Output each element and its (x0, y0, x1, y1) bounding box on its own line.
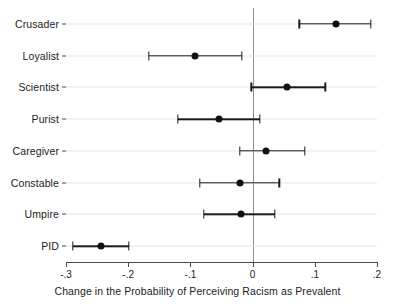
category-tick (62, 55, 66, 56)
x-axis-title: Change in the Probability of Perceiving … (0, 285, 395, 297)
x-axis-tick-label: -.1 (185, 269, 197, 280)
category-label-caregiver: Caregiver (13, 145, 59, 157)
confidence-interval-cap (304, 146, 305, 155)
category-label-purist: Purist (32, 113, 59, 125)
category-label-scientist: Scientist (18, 81, 59, 93)
x-axis-tick-label: .1 (311, 269, 319, 280)
x-axis-tick (253, 262, 254, 267)
confidence-interval-cap (325, 83, 326, 92)
x-axis-tick-label: 0 (250, 269, 256, 280)
x-axis-tick (190, 262, 191, 267)
category-tick (62, 87, 66, 88)
x-axis-tick (66, 262, 67, 267)
plot-area: CrusaderLoyalistScientistPuristCaregiver… (66, 8, 377, 262)
forest-plot-figure: CrusaderLoyalistScientistPuristCaregiver… (0, 0, 395, 306)
category-tick (62, 119, 66, 120)
estimate-point (332, 20, 339, 27)
category-tick (62, 182, 66, 183)
category-tick (62, 214, 66, 215)
confidence-interval-cap (274, 210, 275, 219)
confidence-interval-cap (199, 178, 200, 187)
x-axis-tick-label: -.3 (60, 269, 72, 280)
estimate-point (216, 116, 223, 123)
category-label-constable: Constable (11, 177, 59, 189)
estimate-point (283, 84, 290, 91)
confidence-interval-cap (177, 115, 178, 124)
category-label-crusader: Crusader (15, 18, 59, 30)
estimate-point (237, 179, 244, 186)
confidence-interval-cap (370, 19, 371, 28)
confidence-interval-cap (259, 115, 260, 124)
confidence-interval-cap (299, 19, 300, 28)
confidence-interval-cap (251, 83, 252, 92)
gridline (66, 87, 377, 88)
category-tick (62, 246, 66, 247)
confidence-interval-cap (239, 146, 240, 155)
gridline (66, 150, 377, 151)
confidence-interval-cap (203, 210, 204, 219)
confidence-interval-cap (279, 178, 280, 187)
category-label-umpire: Umpire (25, 208, 59, 220)
confidence-interval-cap (241, 51, 242, 60)
x-axis-tick-label: -.2 (122, 269, 134, 280)
x-axis-tick-label: .2 (373, 269, 381, 280)
zero-reference-line (253, 8, 254, 262)
category-label-loyalist: Loyalist (23, 50, 59, 62)
estimate-point (238, 211, 245, 218)
category-tick (62, 150, 66, 151)
x-axis-line (66, 262, 377, 263)
x-axis-tick (377, 262, 378, 267)
confidence-interval-cap (148, 51, 149, 60)
x-axis-tick (315, 262, 316, 267)
confidence-interval-cap (72, 242, 73, 251)
estimate-point (263, 147, 270, 154)
confidence-interval-cap (128, 242, 129, 251)
confidence-interval-bar (240, 150, 305, 151)
category-tick (62, 23, 66, 24)
category-label-pid: PID (41, 240, 59, 252)
x-axis-tick (128, 262, 129, 267)
estimate-point (98, 243, 105, 250)
estimate-point (192, 52, 199, 59)
